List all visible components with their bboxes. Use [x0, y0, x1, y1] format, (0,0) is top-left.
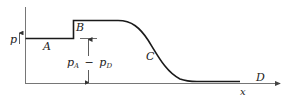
- region-d-label: D: [256, 72, 265, 83]
- pressure-difference-label: pA − pD: [67, 57, 112, 70]
- y-axis-label: p: [10, 34, 17, 45]
- pa-subscript: A: [74, 62, 79, 70]
- region-b-label: B: [76, 22, 84, 33]
- minus-sign: −: [85, 56, 94, 69]
- pd-subscript: D: [106, 62, 112, 70]
- pa-symbol: p: [67, 56, 74, 69]
- region-a-label: A: [43, 41, 51, 52]
- region-c-label: C: [146, 51, 154, 62]
- pressure-curve: [26, 21, 241, 82]
- x-axis-label: x: [240, 87, 246, 97]
